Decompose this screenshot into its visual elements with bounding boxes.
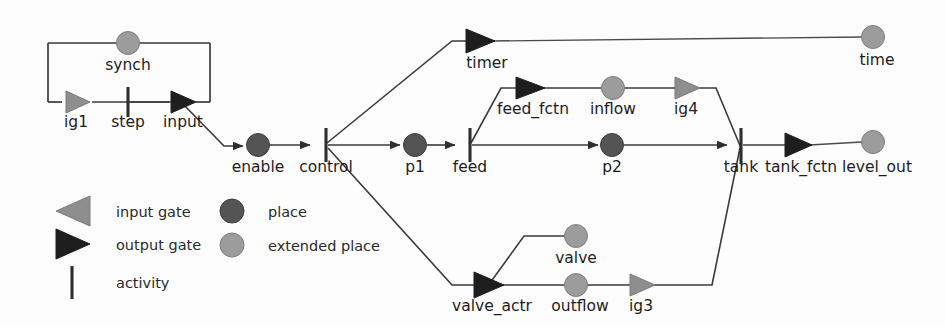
legend: input gate output gate activity place ex… — [56, 196, 380, 299]
node-label-enable: enable — [232, 158, 285, 176]
edge-timer-to-time — [492, 37, 862, 41]
legend-extended-place-icon — [220, 233, 244, 257]
node-label-outflow: outflow — [551, 297, 609, 315]
node-p2[interactable] — [601, 134, 624, 157]
node-enable[interactable] — [247, 134, 270, 157]
edge-valve-actr-to-valve — [490, 236, 565, 283]
node-label-tank-fctn: tank_fctn — [765, 158, 837, 177]
node-label-p1: p1 — [405, 158, 425, 176]
node-valve_actr[interactable] — [474, 272, 504, 298]
node-tank_fctn[interactable] — [785, 133, 812, 157]
node-label-feed: feed — [453, 158, 487, 176]
node-level_out[interactable] — [862, 131, 885, 154]
legend-label-input-gate: input gate — [116, 204, 191, 220]
node-p1[interactable] — [404, 134, 427, 157]
node-label-inflow: inflow — [590, 100, 636, 118]
legend-label-activity: activity — [116, 275, 170, 291]
san-diagram: synch ig1 step input enable control p1 f… — [0, 0, 945, 327]
node-ig4[interactable] — [675, 77, 700, 99]
legend-input-gate-icon — [56, 196, 90, 226]
edge-control-to-timer — [327, 41, 468, 143]
node-label-control: control — [299, 158, 353, 176]
node-timer[interactable] — [466, 29, 495, 53]
node-ig3[interactable] — [630, 274, 655, 296]
diagram-canvas: synch ig1 step input enable control p1 f… — [0, 0, 945, 327]
node-label-feed-fctn: feed_fctn — [497, 100, 569, 119]
legend-label-output-gate: output gate — [116, 237, 201, 253]
node-label-ig3: ig3 — [629, 297, 653, 315]
node-label-timer: timer — [466, 54, 508, 72]
node-label-valve-actr: valve_actr — [452, 297, 533, 316]
legend-output-gate-icon — [56, 229, 90, 259]
node-label-valve: valve — [555, 249, 597, 267]
node-label-input: input — [163, 113, 203, 131]
node-synch[interactable] — [117, 32, 140, 55]
node-inflow[interactable] — [602, 77, 625, 100]
legend-label-place: place — [268, 204, 307, 220]
edge-ig4-to-tank — [697, 88, 741, 148]
edge-tank-fctn-to-level-out — [809, 142, 862, 145]
node-label-time: time — [859, 51, 894, 69]
legend-place-icon — [220, 199, 244, 223]
node-time[interactable] — [862, 26, 885, 49]
node-outflow[interactable] — [565, 274, 588, 297]
node-label-level-out: level_out — [842, 158, 912, 177]
node-ig1[interactable] — [66, 91, 90, 113]
node-input[interactable] — [171, 91, 196, 113]
legend-label-extended-place: extended place — [268, 238, 380, 254]
node-label-p2: p2 — [602, 158, 622, 176]
node-label-ig4: ig4 — [674, 100, 698, 118]
node-label-ig1: ig1 — [64, 113, 88, 131]
node-feed_fctn[interactable] — [516, 77, 545, 99]
node-label-synch: synch — [105, 56, 150, 74]
node-label-tank: tank — [724, 158, 758, 176]
node-label-step: step — [111, 113, 145, 131]
node-valve[interactable] — [565, 225, 588, 248]
